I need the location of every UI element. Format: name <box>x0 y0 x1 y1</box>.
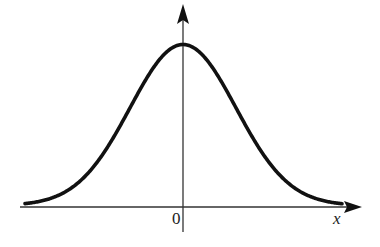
y-axis <box>177 4 189 232</box>
x-axis-label: x <box>333 209 341 229</box>
bell-curve-diagram <box>0 0 380 247</box>
origin-label: 0 <box>172 209 181 229</box>
x-axis <box>20 201 362 213</box>
